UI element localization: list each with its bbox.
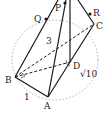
point-Q-dot <box>44 17 47 20</box>
label-P: P <box>55 3 61 13</box>
geometry-diagram: P Q R C B D A 3 1 √10 <box>0 0 110 117</box>
label-C: C <box>96 21 103 31</box>
edge-label-AB: 1 <box>24 92 30 102</box>
label-A: A <box>43 101 51 111</box>
label-R: R <box>93 8 100 18</box>
label-B: B <box>5 75 12 85</box>
edge-DC <box>70 24 94 62</box>
edge-RC <box>78 0 94 24</box>
edge-label-CD: √10 <box>80 69 97 79</box>
point-P-dot <box>63 1 66 4</box>
label-Q: Q <box>34 14 41 24</box>
edge-BA <box>15 77 48 97</box>
edge-label-BC: 3 <box>46 36 52 46</box>
point-R-dot <box>88 12 91 15</box>
